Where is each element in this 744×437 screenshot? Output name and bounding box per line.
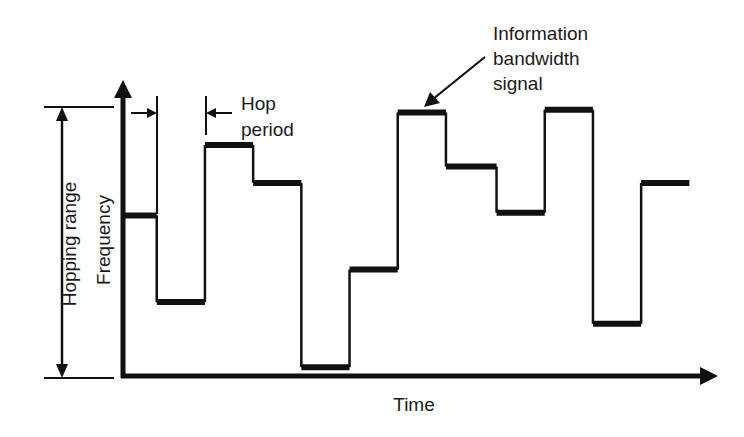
hop-period-left-arrow-icon (147, 108, 157, 118)
info-label-line2: bandwidth (493, 48, 580, 69)
y-axis-arrow-icon (114, 80, 132, 98)
hopping-range-down-arrow-icon (56, 364, 68, 378)
info-label-line1: Information (493, 23, 588, 44)
frequency-hopping-diagram: Hopping range Frequency Time Hop period … (0, 0, 744, 437)
hopping-range-up-arrow-icon (56, 107, 68, 121)
hop-period-right-arrow-icon (206, 108, 216, 118)
y-axis: Frequency (93, 80, 132, 378)
info-pointer-line (433, 57, 485, 99)
x-axis: Time (121, 367, 718, 415)
hop-period-annotation: Hop period (131, 93, 294, 214)
hop-period-label-line1: Hop (241, 93, 276, 114)
info-label-line3: signal (493, 73, 543, 94)
hopping-range-label: Hopping range (59, 182, 80, 307)
y-axis-label: Frequency (93, 195, 114, 285)
hopping-signal (123, 110, 689, 367)
hop-period-label-line2: period (241, 119, 294, 140)
information-bandwidth-annotation: Information bandwidth signal (424, 23, 588, 107)
x-axis-arrow-icon (700, 367, 718, 385)
x-axis-label: Time (393, 394, 435, 415)
